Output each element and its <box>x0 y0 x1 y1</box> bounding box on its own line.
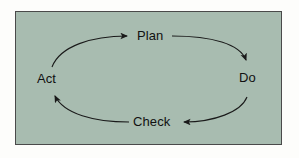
cycle-node-check: Check <box>133 115 170 129</box>
cycle-node-do: Do <box>239 71 256 85</box>
cycle-node-act: Act <box>37 72 56 86</box>
cycle-node-plan: Plan <box>137 29 163 43</box>
figure-canvas: Plan Do Check Act <box>0 0 299 158</box>
